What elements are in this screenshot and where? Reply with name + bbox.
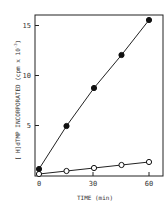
filled-circle-marker — [119, 52, 124, 57]
x-tick-0: 0 — [37, 180, 41, 188]
x-tick-30: 30 — [89, 180, 97, 188]
y-tick-10: 10 — [23, 72, 31, 80]
filled-circle-marker — [36, 166, 41, 171]
svg-text:[ H]dTMP INCORPORATED (cpm x 1: [ H]dTMP INCORPORATED (cpm x 10-3) — [13, 40, 22, 160]
open-circle-marker — [64, 168, 69, 173]
y-axis — [35, 26, 39, 126]
series-line-0 — [39, 20, 149, 169]
open-circle-marker — [119, 162, 124, 167]
filled-circle-marker — [146, 17, 151, 22]
plot-frame — [35, 15, 163, 176]
filled-circle-marker — [91, 85, 96, 90]
y-tick-15: 15 — [23, 22, 31, 30]
chart: 15 10 5 0 30 60 TIME (min) [ H]dTMP INCO… — [0, 0, 167, 206]
x-axis-title: TIME (min) — [77, 194, 113, 201]
x-tick-60: 60 — [145, 180, 153, 188]
y-tick-5: 5 — [27, 122, 31, 130]
open-circle-marker — [36, 171, 41, 176]
filled-circle-marker — [64, 123, 69, 128]
series-layer — [36, 17, 151, 176]
y-axis-title: [ H]dTMP INCORPORATED (cpm x 10-3) — [13, 40, 22, 160]
open-circle-marker — [91, 165, 96, 170]
open-circle-marker — [146, 159, 151, 164]
